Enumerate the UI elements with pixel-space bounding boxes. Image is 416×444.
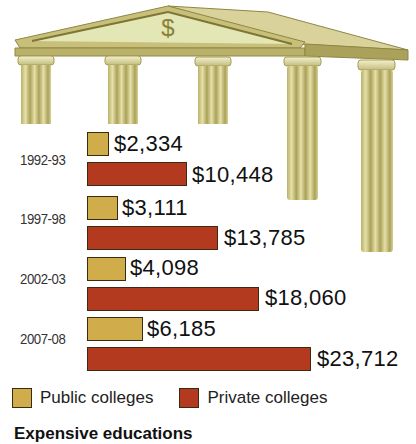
bar-private-1997-98 bbox=[87, 226, 218, 250]
category-label: 1992-93 bbox=[20, 151, 76, 168]
bar-public-2002-03 bbox=[87, 257, 126, 281]
svg-text:$: $ bbox=[161, 14, 174, 41]
bar-private-1992-93 bbox=[87, 162, 187, 186]
bar-private-2007-08 bbox=[87, 347, 311, 371]
bar-private-2002-03 bbox=[87, 287, 259, 311]
value-label: $18,060 bbox=[265, 286, 347, 310]
value-label: $6,185 bbox=[147, 317, 216, 341]
category-label: 2007-08 bbox=[20, 330, 76, 347]
bar-public-2007-08 bbox=[87, 317, 143, 341]
chart-legend: Public colleges Private colleges bbox=[12, 388, 353, 408]
value-label: $23,712 bbox=[317, 347, 399, 371]
value-label: $2,334 bbox=[114, 132, 183, 156]
chart-title: Expensive educations bbox=[14, 424, 193, 444]
legend-label-private: Private colleges bbox=[207, 388, 327, 408]
value-label: $13,785 bbox=[224, 226, 306, 250]
category-label: 2002-03 bbox=[20, 270, 76, 287]
bar-public-1997-98 bbox=[87, 196, 118, 220]
legend-swatch-private bbox=[179, 388, 199, 408]
value-label: $3,111 bbox=[122, 196, 188, 220]
legend-swatch-public bbox=[12, 388, 32, 408]
value-label: $4,098 bbox=[130, 256, 199, 280]
value-label: $10,448 bbox=[192, 163, 274, 187]
category-label: 1997-98 bbox=[20, 210, 76, 227]
bar-public-1992-93 bbox=[87, 132, 109, 156]
legend-label-public: Public colleges bbox=[40, 388, 153, 408]
